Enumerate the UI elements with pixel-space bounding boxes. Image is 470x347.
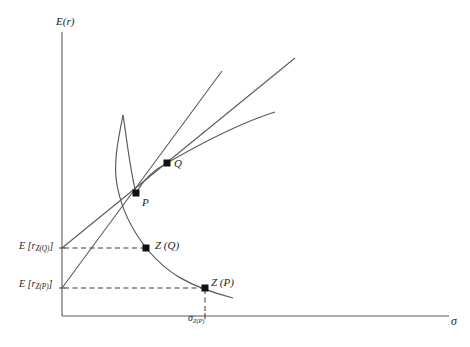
x-tick-label-sigma-zero-beta-p: σZ(P) <box>188 313 204 324</box>
point-label-p: P <box>142 197 149 208</box>
frontier-lower-branch <box>116 115 233 298</box>
tangent-line-at-p <box>62 71 222 288</box>
marker-point-zp <box>202 285 209 292</box>
axes-group <box>62 32 449 316</box>
erzq-suffix: ] <box>49 240 53 251</box>
erzq-subscript: Z(Q) <box>35 245 49 253</box>
erzp-suffix: ] <box>49 278 53 289</box>
marker-point-zq <box>143 245 150 252</box>
y-axis-label: E(r) <box>56 16 74 27</box>
y-tick-label-expected-return-zero-beta-q: E [rZ(Q)] <box>19 241 53 253</box>
tick-marks-group <box>59 248 205 319</box>
erzq-prefix: E [r <box>19 240 35 251</box>
marker-point-q <box>164 160 171 167</box>
marker-point-p <box>133 190 140 197</box>
point-label-zero-beta-p: Z (P) <box>211 277 234 288</box>
sigma-zp-subscript: Z(P) <box>193 317 204 324</box>
figure-canvas <box>0 0 470 347</box>
efficient-frontier-figure: E(r) σ P Q Z (Q) Z (P) E [rZ(Q)] E [rZ(P… <box>0 0 470 347</box>
point-label-zero-beta-q: Z (Q) <box>155 240 179 251</box>
erzp-prefix: E [r <box>19 278 35 289</box>
x-axis-label: σ <box>451 315 457 327</box>
point-label-q: Q <box>174 158 182 169</box>
y-tick-label-expected-return-zero-beta-p: E [rZ(P)] <box>19 279 53 291</box>
erzp-subscript: Z(P) <box>35 283 48 291</box>
tangent-line-at-q <box>62 58 295 248</box>
frontier-upper-branch <box>123 112 275 193</box>
